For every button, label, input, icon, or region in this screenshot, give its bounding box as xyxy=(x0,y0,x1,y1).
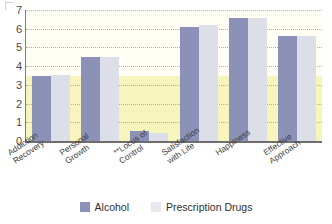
y-tick-2: 2 xyxy=(16,98,22,109)
legend-item-prescription-drugs[interactable]: Prescription Drugs xyxy=(151,202,252,213)
bar-prescription-drugs[interactable] xyxy=(199,25,218,141)
bar-group xyxy=(174,10,223,141)
legend-label-alcohol: Alcohol xyxy=(95,202,129,213)
legend-label-prescription-drugs: Prescription Drugs xyxy=(166,202,252,213)
bar-alcohol[interactable] xyxy=(81,57,100,141)
y-tick-6: 6 xyxy=(16,23,22,34)
bar-alcohol[interactable] xyxy=(278,36,297,141)
bar-group xyxy=(26,10,75,141)
y-tick-5: 5 xyxy=(16,42,22,53)
bar-chart: 7 6 5 4 3 2 1 0 Addiction RecoveryPerson… xyxy=(0,0,332,224)
bar-prescription-drugs[interactable] xyxy=(248,18,267,142)
bar-alcohol[interactable] xyxy=(229,18,248,142)
bar-group xyxy=(223,10,272,141)
plot-area-wrapper: 7 6 5 4 3 2 1 0 xyxy=(0,10,332,150)
y-axis-tick-labels: 7 6 5 4 3 2 1 0 xyxy=(8,10,22,140)
bar-group xyxy=(75,10,124,141)
plot-area xyxy=(26,10,322,141)
bar-prescription-drugs[interactable] xyxy=(149,133,168,141)
bar-groups xyxy=(26,10,322,141)
bar-alcohol[interactable] xyxy=(180,27,199,141)
bar-group xyxy=(125,10,174,141)
legend-item-alcohol[interactable]: Alcohol xyxy=(80,202,129,213)
y-tick-1: 1 xyxy=(16,117,22,128)
y-tick-7: 7 xyxy=(16,5,22,16)
legend-swatch-icon-prescription-drugs xyxy=(151,202,161,212)
chart-legend: Alcohol Prescription Drugs xyxy=(0,199,332,215)
bar-prescription-drugs[interactable] xyxy=(297,36,316,141)
corner-crop-mark xyxy=(5,2,13,10)
x-axis-category-labels: Addiction RecoveryPersonal Growth**Locus… xyxy=(0,150,332,196)
bar-group xyxy=(273,10,322,141)
legend-swatch-icon-alcohol xyxy=(80,202,90,212)
y-tick-3: 3 xyxy=(16,79,22,90)
bar-prescription-drugs[interactable] xyxy=(51,75,70,141)
bar-prescription-drugs[interactable] xyxy=(100,57,119,141)
y-tick-4: 4 xyxy=(16,61,22,72)
